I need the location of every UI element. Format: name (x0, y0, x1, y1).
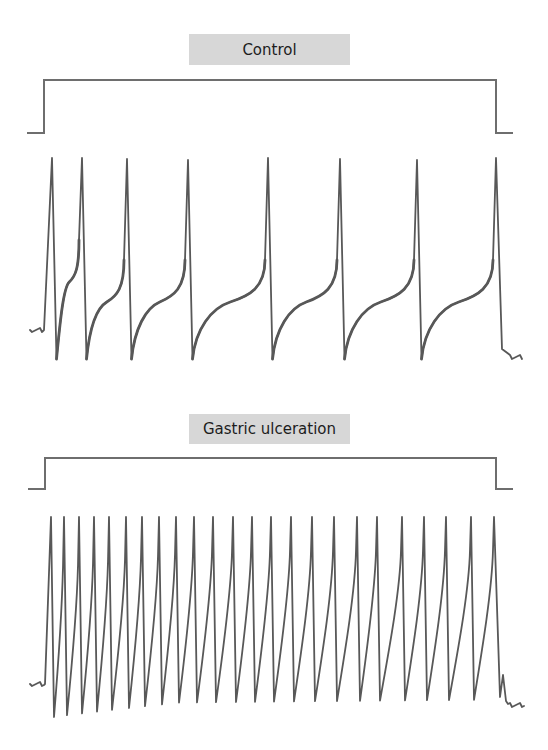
stimulus-step-control (27, 80, 513, 133)
stimulus-step-gastric-ulceration (28, 458, 513, 489)
membrane-trace-control (30, 158, 522, 359)
electrophysiology-traces (0, 0, 548, 750)
membrane-trace-gastric-ulceration (30, 517, 524, 717)
membrane-trace-control-recovery (57, 240, 494, 359)
